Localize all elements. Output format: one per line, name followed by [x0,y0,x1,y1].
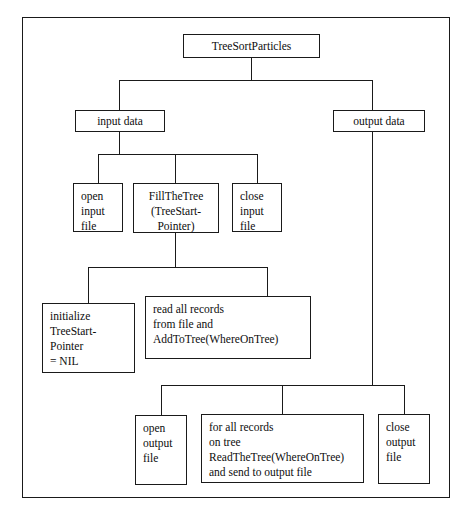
connector-input-data-down [119,132,120,154]
connector-fill-the-tree-bus [88,267,268,268]
connector-root-down [251,58,252,80]
node-close-input-file[interactable]: close input file [232,183,282,232]
connector-to-for-all-records [282,385,283,414]
node-output-data[interactable]: output data [333,110,425,132]
node-tree-sort-particles[interactable]: TreeSortParticles [183,34,320,58]
connector-to-close-input-file [257,154,258,183]
connector-output-data-down [372,132,373,385]
connector-level1-bus [119,80,373,81]
connector-input-bus [98,154,258,155]
node-read-all-records[interactable]: read all records from file and AddToTree… [145,296,311,359]
node-input-data[interactable]: input data [75,110,165,132]
connector-to-output-data [372,80,373,110]
node-initialize-tree-start-pointer[interactable]: initialize TreeStart- Pointer = NIL [42,303,135,373]
node-fill-the-tree[interactable]: FillTheTree (TreeStart- Pointer) [133,183,219,233]
connector-to-fill-the-tree [175,154,176,183]
node-close-output-file[interactable]: close output file [378,414,430,484]
connector-output-bus [161,385,405,386]
diagram-canvas: TreeSortParticles input data output data… [0,0,469,516]
connector-to-initialize-pointer [88,267,89,303]
connector-to-input-data [119,80,120,110]
connector-to-open-output-file [161,385,162,415]
connector-to-read-all-records [267,267,268,296]
connector-to-close-output-file [404,385,405,414]
node-label: input data [97,114,143,129]
node-for-all-records[interactable]: for all records on tree ReadTheTree(Wher… [201,414,364,483]
connector-fill-the-tree-down [175,233,176,267]
node-open-output-file[interactable]: open output file [135,415,187,485]
node-open-input-file[interactable]: open input file [73,183,123,232]
node-label: output data [353,114,404,129]
node-label: TreeSortParticles [212,39,291,54]
connector-to-open-input-file [98,154,99,183]
